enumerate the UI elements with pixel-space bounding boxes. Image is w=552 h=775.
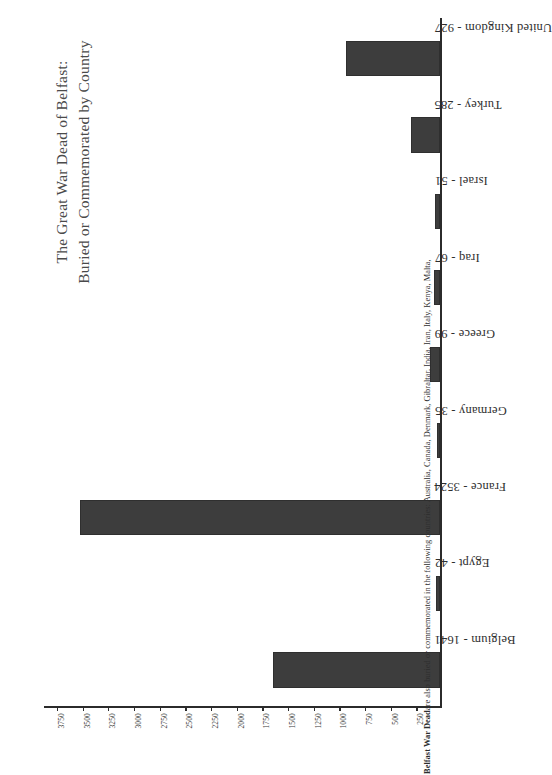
- tick-mark: [211, 706, 212, 711]
- footnote-lead: Belfast War Dead: [423, 710, 432, 774]
- tick-label: 2750: [160, 713, 169, 729]
- tick-label: 1000: [339, 713, 348, 729]
- tick-label: 2500: [185, 713, 194, 729]
- bar-label: Germany - 35: [434, 403, 506, 418]
- bar-label: Greece - 99: [434, 326, 495, 341]
- footnote-rest: are also buried or commemorated in the f…: [423, 259, 432, 710]
- bar-label: Iraq - 67: [434, 250, 479, 265]
- bar-label: Egypt - 42: [434, 555, 489, 570]
- tick-label: 2000: [237, 713, 246, 729]
- bar-label: Turkey - 285: [434, 97, 501, 112]
- tick-label: 1750: [262, 713, 271, 729]
- tick-mark: [262, 706, 263, 711]
- tick-mark: [83, 706, 84, 711]
- tick-mark: [57, 706, 58, 711]
- bar[interactable]: [273, 652, 441, 687]
- tick-label: 1500: [288, 713, 297, 729]
- tick-mark: [108, 706, 109, 711]
- plot-area: Belgium - 1641Egypt - 42France - 3524Ger…: [44, 18, 442, 706]
- tick-mark: [237, 706, 238, 711]
- tick-mark: [339, 706, 340, 711]
- bar[interactable]: [437, 423, 441, 458]
- tick-label: 2250: [211, 713, 220, 729]
- value-axis-line: [44, 706, 442, 708]
- tick-label: 3000: [134, 713, 143, 729]
- tick-mark: [160, 706, 161, 711]
- bar[interactable]: [80, 500, 440, 535]
- value-axis: 3750350032503000275025002250200017501500…: [44, 706, 442, 775]
- tick-mark: [134, 706, 135, 711]
- tick-mark: [391, 706, 392, 711]
- tick-label: 500: [391, 713, 400, 725]
- bar-label: France - 3524: [434, 479, 506, 494]
- footnote: Belfast War Dead are also buried or comm…: [418, 12, 436, 774]
- tick-label: 3750: [57, 713, 66, 729]
- category-axis-line: [440, 18, 442, 706]
- bar[interactable]: [436, 576, 440, 611]
- tick-label: 3250: [108, 713, 117, 729]
- bar-label: Belgium - 1641: [434, 632, 515, 647]
- tick-mark: [365, 706, 366, 711]
- tick-mark: [185, 706, 186, 711]
- tick-mark: [288, 706, 289, 711]
- tick-label: 1250: [314, 713, 323, 729]
- tick-label: 3500: [83, 713, 92, 729]
- bar-series: Belgium - 1641Egypt - 42France - 3524Ger…: [44, 18, 440, 706]
- bar-label: Israel - 51: [434, 173, 487, 188]
- bar-label: United Kingdom - 927: [434, 20, 552, 35]
- tick-label: 750: [365, 713, 374, 725]
- tick-mark: [314, 706, 315, 711]
